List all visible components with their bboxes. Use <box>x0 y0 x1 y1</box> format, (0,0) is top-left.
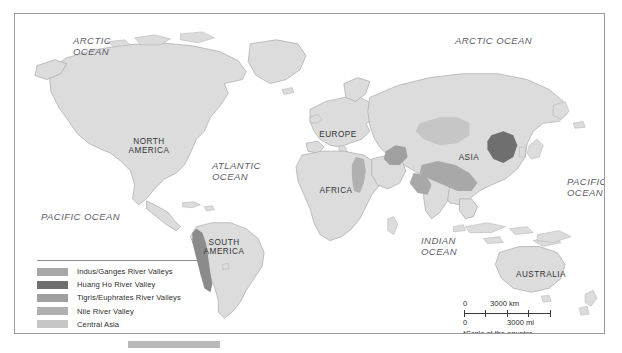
scale-top-numbers: 0 3000 km <box>463 299 571 309</box>
scale-distance-km: 3000 km <box>490 299 519 308</box>
scale-ruler <box>463 310 571 317</box>
legend-item: Indus/Ganges River Valleys <box>37 265 203 278</box>
legend-item: Nile River Valley <box>37 305 203 318</box>
scale-distance-mi: 3000 mi <box>507 318 534 327</box>
scale-zero-mi: 0 <box>463 318 467 327</box>
map-legend: Indus/Ganges River Valleys Huang Ho Rive… <box>37 260 203 334</box>
legend-item: Tigris/Euphrates River Valleys <box>37 291 203 304</box>
legend-label: Inca <box>77 333 92 334</box>
legend-item: Central Asia <box>37 318 203 331</box>
legend-label: Tigris/Euphrates River Valleys <box>77 293 181 302</box>
scale-bottom-numbers: 0 3000 mi <box>463 318 571 328</box>
legend-swatch-indus-ganges <box>37 268 68 276</box>
scale-tick <box>507 310 508 317</box>
world-map-figure: .land { fill:#dcdcdc; stroke:#a9a9a9; st… <box>0 0 622 353</box>
scale-zero-km: 0 <box>463 299 467 308</box>
scale-tick <box>550 310 551 317</box>
scale-tick <box>528 310 529 317</box>
scale-note: *Scale at the equator <box>463 329 571 334</box>
map-scale-bar: 0 3000 km 0 3000 mi *Scale at the equato… <box>463 299 571 334</box>
legend-swatch-nile <box>37 307 68 315</box>
legend-item: Huang Ho River Valley <box>37 278 203 291</box>
legend-swatch-huang-ho <box>37 281 68 289</box>
legend-swatch-central-asia <box>37 320 68 328</box>
scale-tick <box>464 310 465 317</box>
scale-tick <box>485 310 486 317</box>
legend-label: Central Asia <box>77 320 119 329</box>
legend-label: Nile River Valley <box>77 307 134 316</box>
legend-item: Inca <box>37 331 203 334</box>
legend-label: Huang Ho River Valley <box>77 280 155 289</box>
legend-swatch-tigris-euphrates <box>37 294 68 302</box>
legend-label: Indus/Ganges River Valleys <box>77 267 173 276</box>
caption-placeholder-bar <box>128 341 220 348</box>
map-frame: .land { fill:#dcdcdc; stroke:#a9a9a9; st… <box>14 13 605 334</box>
